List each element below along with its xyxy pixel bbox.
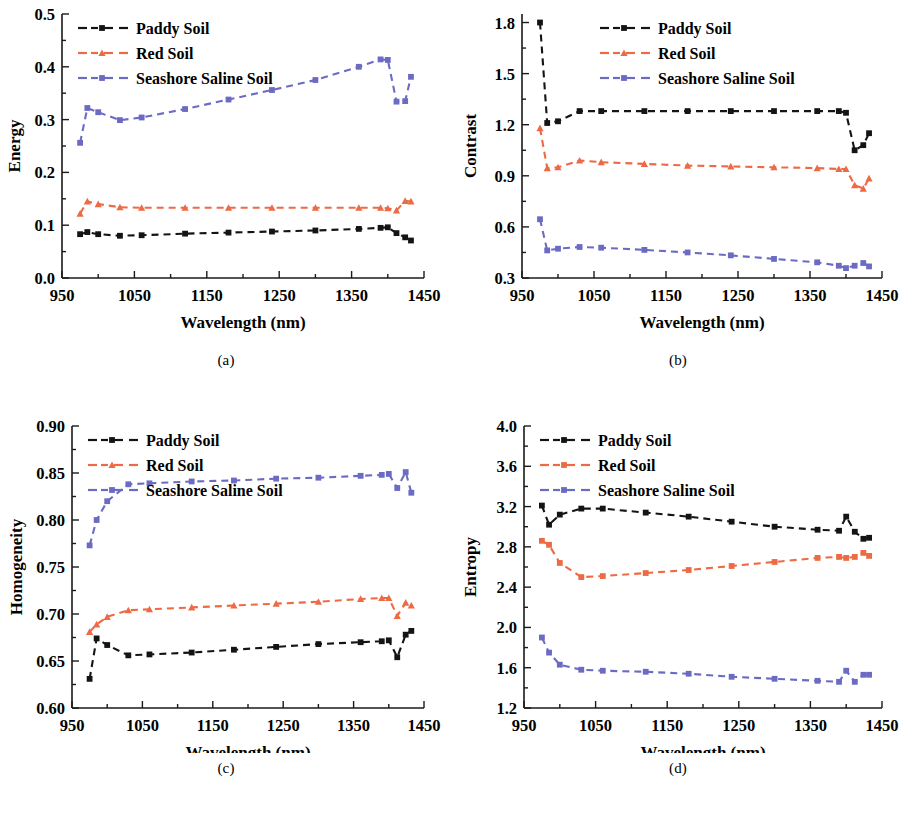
panel-caption-d: (d) bbox=[452, 760, 904, 777]
x-axis-ticks: 95010501150125013501450 bbox=[50, 271, 441, 305]
x-axis-title: Wavelength (nm) bbox=[640, 743, 765, 753]
y-tick-label: 0.60 bbox=[36, 699, 65, 718]
x-tick-label: 1350 bbox=[335, 286, 368, 305]
chart-c-svg: 950105011501250135014500.600.650.700.750… bbox=[0, 408, 452, 753]
y-tick-label: 1.2 bbox=[496, 699, 517, 718]
series-red-soil bbox=[77, 197, 415, 216]
legend-label: Paddy Soil bbox=[658, 20, 732, 38]
x-tick-label: 1250 bbox=[263, 286, 296, 305]
x-tick-label: 950 bbox=[50, 286, 75, 305]
y-tick-label: 0.3 bbox=[494, 269, 515, 288]
x-tick-label: 950 bbox=[510, 286, 535, 305]
legend-label: Paddy Soil bbox=[146, 432, 220, 450]
series-line bbox=[90, 631, 412, 679]
legend-item-seashore-saline-soil[interactable]: Seashore Saline Soil bbox=[540, 482, 735, 499]
x-tick-label: 1350 bbox=[794, 286, 827, 305]
panel-caption-a: (a) bbox=[0, 352, 452, 369]
series-seashore-saline-soil bbox=[539, 635, 872, 685]
legend: Paddy SoilRed SoilSeashore Saline Soil bbox=[78, 20, 273, 87]
y-tick-label: 3.6 bbox=[496, 457, 517, 476]
y-tick-label: 0.6 bbox=[494, 218, 515, 237]
axes bbox=[62, 14, 424, 278]
x-tick-label: 1050 bbox=[579, 716, 612, 735]
series-line bbox=[542, 506, 869, 539]
y-tick-label: 0.2 bbox=[34, 163, 55, 182]
panel-caption-b: (b) bbox=[452, 352, 904, 369]
legend-item-seashore-saline-soil[interactable]: Seashore Saline Soil bbox=[600, 70, 795, 87]
legend-label: Red Soil bbox=[146, 457, 204, 474]
chart-panel-d: 950105011501250135014501.21.62.02.42.83.… bbox=[452, 408, 904, 816]
legend-item-paddy-soil[interactable]: Paddy Soil bbox=[540, 432, 672, 450]
x-tick-label: 1150 bbox=[650, 286, 682, 305]
axes bbox=[524, 426, 882, 708]
legend-item-paddy-soil[interactable]: Paddy Soil bbox=[600, 20, 732, 38]
x-axis-title: Wavelength (nm) bbox=[185, 743, 310, 753]
legend-item-red-soil[interactable]: Red Soil bbox=[88, 457, 204, 474]
series-line bbox=[542, 638, 869, 682]
y-axis-ticks: 1.21.62.02.42.83.23.64.0 bbox=[496, 417, 531, 718]
y-tick-label: 0.70 bbox=[36, 605, 65, 624]
y-tick-label: 1.2 bbox=[494, 116, 515, 135]
figure-root: 950105011501250135014500.00.10.20.30.40.… bbox=[0, 0, 904, 816]
y-tick-label: 0.75 bbox=[36, 558, 65, 577]
x-tick-label: 1250 bbox=[722, 716, 755, 735]
x-axis-title: Wavelength (nm) bbox=[639, 313, 764, 332]
legend-item-paddy-soil[interactable]: Paddy Soil bbox=[88, 432, 220, 450]
y-tick-label: 2.8 bbox=[496, 538, 517, 557]
chart-d-svg: 950105011501250135014501.21.62.02.42.83.… bbox=[452, 408, 904, 753]
legend-label: Red Soil bbox=[136, 45, 194, 62]
y-tick-label: 3.2 bbox=[496, 498, 517, 517]
axes bbox=[72, 426, 424, 708]
series-paddy-soil bbox=[539, 503, 872, 542]
x-tick-label: 1150 bbox=[191, 286, 223, 305]
legend-label: Seashore Saline Soil bbox=[658, 70, 795, 87]
x-tick-label: 950 bbox=[512, 716, 537, 735]
x-tick-label: 1150 bbox=[651, 716, 683, 735]
series-red-soil bbox=[536, 125, 872, 192]
legend-item-paddy-soil[interactable]: Paddy Soil bbox=[78, 20, 210, 38]
y-axis-title: Homogeneity bbox=[7, 518, 26, 615]
legend-item-red-soil[interactable]: Red Soil bbox=[600, 45, 716, 62]
x-tick-label: 1450 bbox=[408, 286, 441, 305]
legend-label: Red Soil bbox=[658, 45, 716, 62]
y-tick-label: 0.85 bbox=[36, 464, 65, 483]
x-tick-label: 1150 bbox=[197, 716, 229, 735]
chart-panel-b: 950105011501250135014500.30.60.91.21.51.… bbox=[452, 0, 904, 408]
legend: Paddy SoilRed SoilSeashore Saline Soil bbox=[540, 432, 735, 499]
series-line bbox=[80, 201, 411, 214]
legend: Paddy SoilRed SoilSeashore Saline Soil bbox=[600, 20, 795, 87]
legend-item-seashore-saline-soil[interactable]: Seashore Saline Soil bbox=[78, 70, 273, 87]
chart-panel-a: 950105011501250135014500.00.10.20.30.40.… bbox=[0, 0, 452, 408]
legend-label: Paddy Soil bbox=[598, 432, 672, 450]
x-tick-label: 950 bbox=[60, 716, 85, 735]
legend-label: Seashore Saline Soil bbox=[598, 482, 735, 499]
legend: Paddy SoilRed SoilSeashore Saline Soil bbox=[88, 432, 283, 499]
legend-item-red-soil[interactable]: Red Soil bbox=[78, 45, 194, 62]
x-tick-label: 1250 bbox=[722, 286, 755, 305]
x-tick-label: 1450 bbox=[408, 716, 441, 735]
series-line bbox=[90, 598, 412, 632]
chart-a-svg: 950105011501250135014500.00.10.20.30.40.… bbox=[0, 0, 452, 345]
y-tick-label: 0.1 bbox=[34, 216, 55, 235]
y-axis-title: Contrast bbox=[461, 114, 480, 179]
y-tick-label: 1.5 bbox=[494, 65, 515, 84]
y-tick-label: 2.0 bbox=[496, 618, 517, 637]
legend-item-red-soil[interactable]: Red Soil bbox=[540, 457, 656, 474]
x-tick-label: 1050 bbox=[578, 286, 611, 305]
x-tick-label: 1350 bbox=[794, 716, 827, 735]
panel-caption-c: (c) bbox=[0, 760, 452, 777]
series-red-soil bbox=[86, 594, 415, 635]
chart-b-svg: 950105011501250135014500.30.60.91.21.51.… bbox=[452, 0, 904, 345]
x-axis-title: Wavelength (nm) bbox=[180, 313, 305, 332]
x-tick-label: 1450 bbox=[866, 716, 899, 735]
y-tick-label: 1.6 bbox=[496, 659, 517, 678]
y-axis-ticks: 0.30.60.91.21.51.8 bbox=[494, 14, 529, 288]
y-tick-label: 0.5 bbox=[34, 5, 55, 24]
y-tick-label: 0.90 bbox=[36, 417, 65, 436]
series-red-soil bbox=[539, 538, 872, 580]
y-tick-label: 0.3 bbox=[34, 111, 55, 130]
y-tick-label: 2.4 bbox=[496, 578, 517, 597]
series-paddy-soil bbox=[87, 628, 415, 682]
x-tick-label: 1350 bbox=[337, 716, 370, 735]
legend-item-seashore-saline-soil[interactable]: Seashore Saline Soil bbox=[88, 482, 283, 499]
